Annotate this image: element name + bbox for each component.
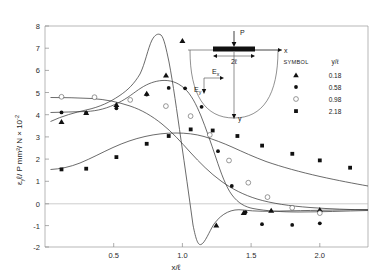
x-tick-label: 2.0 [315,251,325,260]
y-tick-label: 8 [36,22,40,31]
inset-load-strip [213,47,255,52]
y-tick-label: 4 [36,111,40,120]
y-axis-units: mm²/ N [15,138,24,164]
legend-value: 0.98 [329,96,342,103]
y-tick-label: 5 [36,89,40,98]
y-tick-label: 7 [36,44,40,53]
legend-header-symbol: SYMBOL [283,59,308,65]
legend-marker-dot [294,85,298,89]
x-tick-label: 1.0 [177,251,187,260]
y-tick-label: 1 [36,177,40,186]
y-axis-title: εyℓ/ P mm²/ N × 10-2 [14,115,25,185]
legend-value: 2.18 [329,108,342,115]
svg-text:εyℓ/ P mm²/ N × 10-2: εyℓ/ P mm²/ N × 10-2 [14,115,25,185]
inset-x-axis-label: x [284,47,288,54]
y-axis-times: × 10 [15,119,24,135]
x-tick-label: 0.5 [108,251,118,260]
y-tick-label: -1 [33,222,40,231]
x-axis-title: x/ℓ [172,263,181,272]
inset-width-label: 2ℓ [231,58,238,65]
y-axis-l-over-p: ℓ/ P [15,166,24,179]
legend-marker-circle [294,97,299,102]
y-tick-label: 6 [36,66,40,75]
legend-value: 0.18 [329,72,342,79]
inset-load-label: P [240,29,245,36]
y-tick-label: 0 [36,200,40,209]
chart-background [0,0,384,280]
x-tick-label: 1.5 [246,251,256,260]
legend-header-value: y/ℓ [331,58,339,66]
strain-distribution-chart: 8 7 6 5 4 3 2 1 0 -1 -2 0.5 1.0 1.5 2.0 … [0,0,384,280]
y-axis-exponent: -2 [14,115,20,120]
y-tick-label: 2 [36,155,40,164]
legend-marker-square [294,109,298,113]
y-tick-label: 3 [36,133,40,142]
legend-value: 0.58 [329,84,342,91]
inset-y-axis-label: y [238,115,242,123]
y-tick-label: -2 [33,243,40,252]
